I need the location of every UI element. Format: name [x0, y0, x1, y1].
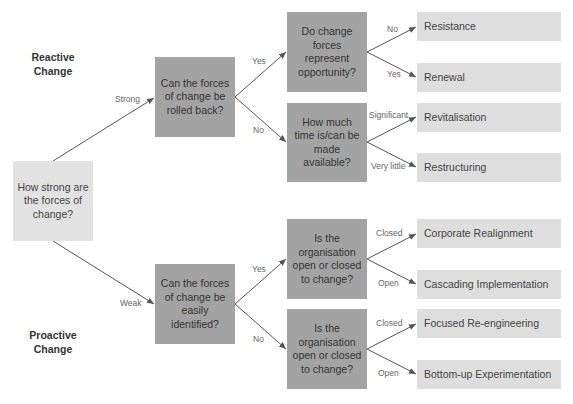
- reactive-change-label: Reactive Change: [18, 50, 88, 78]
- edge-label-closed-1: Closed: [376, 228, 402, 238]
- question-open-closed-1: Is the organisation open or closed to ch…: [287, 219, 367, 299]
- outcome-restructuring: Restructuring: [417, 153, 561, 182]
- outcome-corporate-realignment: Corporate Realignment: [417, 219, 561, 248]
- outcome-focused-reengineering: Focused Re-engineering: [417, 309, 561, 338]
- edge-label-strong: Strong: [115, 94, 140, 104]
- outcome-revitalisation: Revitalisation: [417, 103, 561, 132]
- outcome-bottom-up-experimentation: Bottom-up Experimentation: [417, 360, 561, 389]
- edge-label-yes-renewal: Yes: [387, 69, 401, 79]
- edge-label-yes-2: Yes: [252, 264, 266, 274]
- edge-label-significant: Significant: [369, 110, 408, 120]
- proactive-change-label: Proactive Change: [18, 328, 88, 356]
- question-opportunity: Do change forces represent opportunity?: [287, 12, 367, 92]
- question-easily-identified: Can the forces of change be easily ident…: [155, 264, 235, 344]
- edge-label-no-1: No: [253, 125, 264, 135]
- start-node: How strong are the forces of change?: [13, 161, 93, 241]
- edge-label-no-2: No: [253, 334, 264, 344]
- edge-label-very-little: Very little: [371, 161, 406, 171]
- edge-label-weak: Weak: [120, 298, 142, 308]
- edge-label-no-resistance: No: [387, 24, 398, 34]
- edge-label-open-2: Open: [378, 368, 399, 378]
- outcome-renewal: Renewal: [417, 63, 561, 92]
- edge-label-open-1: Open: [378, 278, 399, 288]
- edge-label-yes-1: Yes: [252, 56, 266, 66]
- question-time-available: How much time is/can be made available?: [287, 103, 367, 182]
- outcome-resistance: Resistance: [417, 12, 561, 41]
- question-open-closed-2: Is the organisation open or closed to ch…: [287, 309, 367, 389]
- outcome-cascading-implementation: Cascading Implementation: [417, 270, 561, 299]
- question-rolled-back: Can the forces of change be rolled back?: [155, 57, 235, 137]
- edge-label-closed-2: Closed: [376, 318, 402, 328]
